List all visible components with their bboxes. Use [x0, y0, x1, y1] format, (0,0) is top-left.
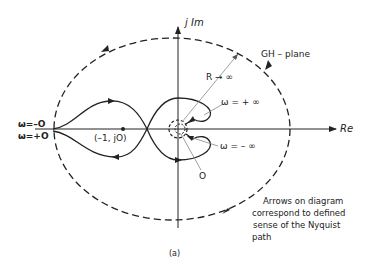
figure-caption: (a): [169, 249, 180, 258]
nyquist-curve-left-upper: [53, 101, 147, 129]
plane-label: GH – plane: [261, 49, 310, 59]
omega-minus-zero-label: ω=–O: [18, 119, 46, 129]
leader-R-arrow-icon: [232, 54, 238, 60]
curve-arrow-right-upper-icon: [188, 116, 195, 123]
critical-point-dot: [121, 127, 125, 131]
R-infinity-label: R → ∞: [206, 72, 233, 82]
contour-arrow-top-right-icon: [265, 60, 272, 70]
curve-arrow-lower-icon: [112, 154, 119, 160]
critical-point-label: (–1, jO): [94, 133, 127, 143]
imag-axis-label: j Im: [183, 17, 204, 28]
curve-arrow-right-lower-inner-icon: [187, 136, 194, 141]
contour-arrow-top-left-icon: [101, 45, 109, 52]
real-axis-label: Re: [340, 123, 353, 134]
omega-plus-inf-label: ω = + ∞: [221, 97, 260, 107]
curve-arrow-upper-icon: [108, 98, 115, 104]
note-line-1: Arrows on diagram: [263, 196, 343, 206]
note-line-4: path: [252, 232, 271, 242]
omega-plus-zero-label: ω=+O: [18, 131, 49, 141]
nyquist-diagram: j Im Re GH – plane R → ∞ ω = + ∞ ω = – ∞…: [0, 0, 374, 272]
note-line-3: sense of the Nyquist: [253, 220, 341, 230]
leader-omega-minus-inf: [193, 138, 218, 146]
nyquist-curve-right-lower: [147, 129, 210, 160]
omega-minus-inf-label: ω = – ∞: [220, 141, 256, 151]
note-line-2: correspond to defined: [252, 208, 346, 218]
origin-label: O: [199, 171, 206, 181]
